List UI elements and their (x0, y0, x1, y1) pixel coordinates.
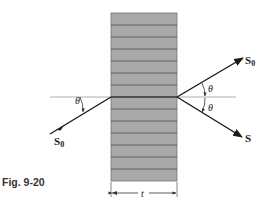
incident-ray-arrow-icon (57, 126, 64, 131)
angle-arc-incident (80, 97, 83, 112)
transmitted-label: S0 (245, 54, 255, 68)
theta-label-incident: θ (75, 95, 80, 106)
incident-label: S0 (54, 135, 64, 149)
angle-arc-upper (202, 83, 205, 96)
figure-caption: Fig. 9-20 (2, 176, 45, 188)
incident-ray (50, 97, 111, 134)
angle-arc-lower (202, 98, 205, 112)
theta-label-upper: θ (208, 83, 213, 94)
theta-label-lower: θ (208, 102, 213, 113)
thickness-label: t (141, 188, 144, 199)
diffraction-diagram: θ θ θ S0 S0 S t Fig. 9-20 (0, 0, 265, 208)
diffracted-label: S (245, 132, 251, 144)
thickness-dimension: t (111, 182, 177, 199)
